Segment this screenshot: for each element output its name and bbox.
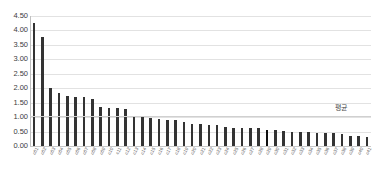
x-axis-category-label: c15: [149, 147, 157, 156]
bar: [108, 108, 111, 146]
x-axis-category-label: c33: [299, 147, 307, 156]
bar: [224, 127, 227, 146]
mean-reference-line: [30, 116, 371, 117]
bar: [291, 132, 294, 146]
y-axis-tick-label: 4.50: [2, 12, 28, 20]
bar: [316, 133, 319, 146]
x-axis-category-label: c36: [324, 147, 332, 156]
x-axis-category-label: c20: [190, 147, 198, 156]
x-axis-category-label: c40: [357, 147, 365, 156]
bar: [349, 136, 352, 146]
x-axis-category-label: c22: [207, 147, 215, 156]
y-axis-tick-label: 3.50: [2, 41, 28, 49]
bar: [166, 120, 169, 146]
bar: [191, 124, 194, 146]
bar: [357, 136, 360, 146]
bar: [141, 117, 144, 146]
x-axis-category-label: c31: [282, 147, 290, 156]
bar-chart: 0.000.501.001.502.002.503.003.504.004.50…: [0, 0, 380, 182]
bar: [91, 99, 94, 146]
bar: [307, 132, 310, 146]
y-axis-tick-label: 1.00: [2, 113, 28, 121]
bar: [83, 97, 86, 146]
bar: [216, 125, 219, 146]
x-axis-category-label: c18: [174, 147, 182, 156]
y-axis-tick-label: 3.00: [2, 56, 28, 64]
x-axis-category-labels: c01c02c03c04c05c06c07c08c09c10c11c12c13c…: [30, 147, 371, 182]
bar: [74, 97, 77, 146]
x-axis-category-label: c17: [166, 147, 174, 156]
bar: [133, 117, 136, 146]
bar: [116, 108, 119, 146]
bar: [174, 120, 177, 146]
x-axis-category-label: c35: [315, 147, 323, 156]
bar: [282, 131, 285, 146]
x-axis-category-label: c34: [307, 147, 315, 156]
x-axis-category-label: c27: [249, 147, 257, 156]
x-axis-category-label: c37: [332, 147, 340, 156]
bar: [199, 124, 202, 146]
bar: [274, 130, 277, 146]
x-axis-category-label: c25: [232, 147, 240, 156]
x-axis-category-label: c05: [66, 147, 74, 156]
y-axis-tick-label: 0.00: [2, 142, 28, 150]
x-axis-category-label: c21: [199, 147, 207, 156]
x-axis-category-label: c41: [365, 147, 373, 156]
bar: [58, 93, 61, 146]
bar: [66, 96, 69, 146]
bar: [49, 88, 52, 146]
x-axis-category-label: c09: [99, 147, 107, 156]
bar: [241, 128, 244, 146]
x-axis-category-label: c28: [257, 147, 265, 156]
bar: [124, 109, 127, 146]
x-axis-category-label: c16: [157, 147, 165, 156]
bar: [41, 37, 44, 146]
y-axis-tick-label: 2.00: [2, 84, 28, 92]
bar: [232, 128, 235, 146]
y-axis-tick-labels: 0.000.501.001.502.002.503.003.504.004.50: [0, 16, 28, 146]
x-axis-category-label: c38: [340, 147, 348, 156]
bar: [183, 122, 186, 146]
bar: [324, 133, 327, 146]
x-axis-category-label: c30: [274, 147, 282, 156]
x-axis-category-label: c06: [74, 147, 82, 156]
bar: [149, 118, 152, 146]
bars-container: 평균: [30, 16, 371, 146]
x-axis-category-label: c02: [41, 147, 49, 156]
x-axis-category-label: c39: [348, 147, 356, 156]
bar: [249, 128, 252, 146]
bar: [341, 134, 344, 146]
bar: [99, 107, 102, 146]
x-axis-category-label: c03: [49, 147, 57, 156]
bar: [366, 137, 369, 146]
x-axis-category-label: c19: [182, 147, 190, 156]
y-axis-tick-label: 4.00: [2, 27, 28, 35]
mean-reference-label: 평균: [335, 104, 347, 111]
bar: [332, 133, 335, 146]
x-axis-category-label: c11: [116, 147, 124, 155]
bar: [208, 125, 211, 146]
bar: [299, 132, 302, 146]
bar: [266, 130, 269, 146]
x-axis-category-label: c12: [124, 147, 132, 156]
x-axis-category-label: c24: [224, 147, 232, 156]
y-axis-tick-label: 2.50: [2, 70, 28, 78]
x-axis-category-label: c14: [141, 147, 149, 156]
bar: [158, 119, 161, 146]
y-axis-tick-label: 0.50: [2, 128, 28, 136]
x-axis-category-label: c08: [91, 147, 99, 156]
bar: [33, 23, 36, 146]
y-axis-tick-label: 1.50: [2, 99, 28, 107]
bar: [257, 128, 260, 146]
